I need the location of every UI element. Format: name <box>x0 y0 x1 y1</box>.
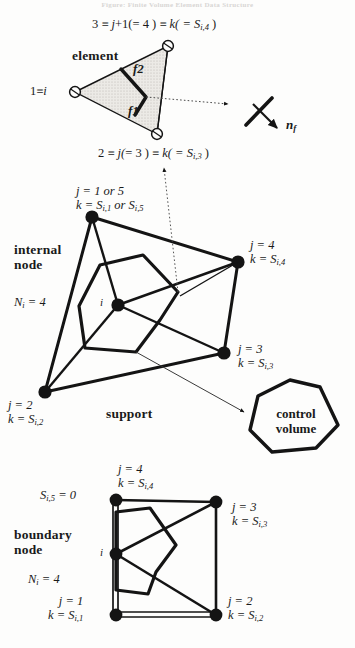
support-node-i <box>111 298 124 311</box>
i2-sub1: i,2 <box>34 417 43 427</box>
i15-sub2: i,5 <box>135 203 144 213</box>
boundary-node-j1-label: j = 1 k = Si,1 <box>48 594 83 624</box>
bj1-a: k = <box>48 608 68 622</box>
ebv-a: 2 <box>98 146 104 160</box>
i4-sub1: i,4 <box>276 257 285 267</box>
internal-j2-line1: j = 2 <box>8 398 43 412</box>
boundary-title-line1: boundary <box>14 527 72 542</box>
bj2-sub1: i,2 <box>254 613 263 623</box>
cv-line1: control <box>258 406 334 421</box>
internal-j3-line2: k = Si,3 <box>238 356 273 372</box>
control-volume-label: control volume <box>258 406 334 437</box>
etv-close: ) <box>209 17 216 31</box>
ebv-e: k( = <box>162 146 186 160</box>
internal-j4-line2: k = Si,4 <box>250 252 285 268</box>
element-left-vertex-label: 1≡i <box>30 84 47 98</box>
element-title: element <box>72 48 118 63</box>
etv-a: 3 <box>92 17 98 31</box>
bj4-sub1: i,4 <box>144 481 153 491</box>
internal-j3-line1: j = 3 <box>238 342 273 356</box>
boundary-node-j3 <box>210 496 223 509</box>
element-bottom-vertex-label: 2 ≡ j(= 3 ) ≡ k( = Si,3 ) <box>98 146 209 162</box>
boundary-node-title: boundary node <box>14 527 72 557</box>
figure-canvas: Figure: Finite Volume Element Data Struc… <box>0 0 355 648</box>
ebv-fsub: i,3 <box>193 151 202 161</box>
internal-support-mesh <box>38 210 244 398</box>
internal-node-count: Ni = 4 <box>14 295 46 311</box>
b-nval: = 4 <box>42 572 60 586</box>
b-j3-line1: j = 3 <box>232 500 267 514</box>
b-j1-line2: k = Si,1 <box>48 608 83 624</box>
boundary-support-mesh <box>110 494 223 622</box>
boundary-zero-entry-label: Si,5 = 0 <box>40 488 76 504</box>
internal-title-line1: internal <box>14 242 61 257</box>
element-face-2-label: f2 <box>133 62 144 77</box>
boundary-title-line2: node <box>14 542 72 557</box>
bz-eq: = 0 <box>55 488 76 502</box>
etv-c: 1( <box>122 17 132 31</box>
boundary-node-j1 <box>110 609 123 622</box>
internal-control-volume-polygon <box>79 255 178 352</box>
boundary-node-j3-label: j = 3 k = Si,3 <box>232 500 267 530</box>
bj4-a: k = <box>118 476 138 490</box>
bj2-a: k = <box>228 608 248 622</box>
int-nsub: i <box>22 300 24 310</box>
boundary-node-j4-label: j = 4 k = Si,4 <box>118 462 153 492</box>
i15-a: k = <box>76 198 96 212</box>
b-j1-line1: j = 1 <box>48 594 83 608</box>
internal-j1or5-line1: j = 1 or 5 <box>76 184 144 198</box>
boundary-control-volume-polygon <box>116 508 176 594</box>
face-normal-label: nf <box>286 118 296 134</box>
internal-node-j4-label: j = 4 k = Si,4 <box>250 238 285 268</box>
bj3-a: k = <box>232 514 252 528</box>
b-j3-line2: k = Si,3 <box>232 514 267 530</box>
bj3-sub1: i,3 <box>258 519 267 529</box>
b-j2-line2: k = Si,2 <box>228 608 263 624</box>
ebv-close: ) <box>202 146 209 160</box>
bz-sub: i,5 <box>46 493 55 503</box>
b-j4-line1: j = 4 <box>118 462 153 476</box>
ebv-eq2: ≡ <box>152 146 159 160</box>
bj1-sub1: i,1 <box>74 613 83 623</box>
elv-b: i <box>43 84 46 98</box>
i4-a: k = <box>250 252 270 266</box>
boundary-node-count: Ni = 4 <box>28 572 60 588</box>
i2-a: k = <box>8 412 28 426</box>
internal-center-node-label: i <box>100 296 103 308</box>
internal-node-j2-label: j = 2 k = Si,2 <box>8 398 43 428</box>
boundary-node-j2-label: j = 2 k = Si,2 <box>228 594 263 624</box>
element-face-1-label: f1 <box>128 104 139 119</box>
nf-sub: f <box>293 123 296 133</box>
boundary-center-node-label: i <box>100 546 103 558</box>
support-node-j3 <box>217 346 230 359</box>
boundary-node-j2 <box>210 609 223 622</box>
i15-mid: or <box>111 198 128 212</box>
internal-node-j3-label: j = 3 k = Si,3 <box>238 342 273 372</box>
etv-e: k( = <box>170 17 194 31</box>
i3-sub1: i,3 <box>264 361 273 371</box>
b-j2-line1: j = 2 <box>228 594 263 608</box>
i15-sub1: i,1 <box>102 203 111 213</box>
support-node-j2 <box>38 385 51 398</box>
internal-j4-line1: j = 4 <box>250 238 285 252</box>
internal-j2-line2: k = Si,2 <box>8 412 43 428</box>
support-to-element-leader <box>164 168 178 292</box>
element-top-vertex-label: 3 ≡ j+1(= 4 ) ≡ k( = Si,4 ) <box>92 17 216 33</box>
etv-fsub: i,4 <box>200 22 209 32</box>
etv-eq2: ≡ <box>159 17 166 31</box>
face-normal-glyph <box>246 98 277 128</box>
internal-node-title: internal node <box>14 242 61 272</box>
cv-line2: volume <box>258 421 334 436</box>
internal-node-j1or5-label: j = 1 or 5 k = Si,1 or Si,5 <box>76 184 144 214</box>
ebv-eq1: ≡ <box>107 146 114 160</box>
boundary-node-j4 <box>110 494 123 507</box>
b-j4-line2: k = Si,4 <box>118 476 153 492</box>
i3-a: k = <box>238 356 258 370</box>
internal-title-line2: node <box>14 257 61 272</box>
int-nval: = 4 <box>28 295 46 309</box>
boundary-node-i <box>110 548 123 561</box>
internal-j1or5-line2: k = Si,1 or Si,5 <box>76 198 144 214</box>
support-label: support <box>106 406 152 421</box>
b-nsub: i <box>36 577 38 587</box>
ebv-d: = 3 ) <box>125 146 149 160</box>
